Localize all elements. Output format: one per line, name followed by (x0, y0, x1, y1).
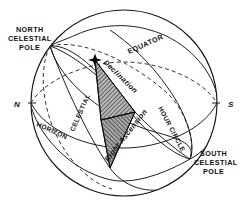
label-south-celestial-pole-line1: SOUTH (200, 149, 227, 158)
celestial-sphere-figure: NORTH CELESTIAL POLE SOUTH CELESTIAL POL… (0, 0, 248, 207)
label-north-cardinal: N (14, 100, 20, 109)
label-horizon: HORIZON (36, 121, 69, 141)
label-south-cardinal: S (228, 100, 234, 109)
label-south-celestial-pole-line3: POLE (203, 167, 224, 176)
celestial-sphere-svg: NORTH CELESTIAL POLE SOUTH CELESTIAL POL… (0, 0, 248, 207)
label-equator: EQUATOR (126, 32, 165, 56)
label-north-celestial-pole-line3: POLE (19, 43, 40, 52)
label-south-celestial-pole-line2: CELESTIAL (194, 158, 238, 167)
star-position-marker (88, 54, 102, 67)
label-north-celestial-pole-line2: CELESTIAL (8, 34, 52, 43)
equator-upper-arc (150, 30, 219, 159)
label-north-celestial-pole-line1: NORTH (16, 25, 44, 34)
